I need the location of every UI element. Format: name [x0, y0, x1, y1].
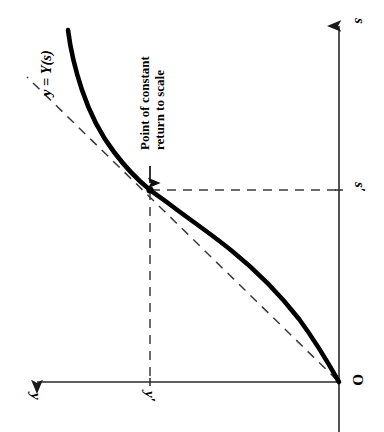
figure-canvas: s s′ y y′ O y = Y(s) Point of constant r… — [0, 0, 384, 432]
annotation-line-2: return to scale — [153, 56, 168, 150]
annotation-line-1: Point of constant — [137, 56, 152, 150]
y-axis-label: y — [27, 393, 44, 400]
y-prime-tick-label: y′ — [141, 391, 158, 402]
s-prime-tick-label: s′ — [351, 182, 368, 192]
s-axis-label: s — [351, 18, 368, 24]
constant-return-annotation: Point of constant return to scale — [138, 56, 167, 150]
constant-returns-ray — [27, 77, 337, 380]
figure-graphic — [0, 0, 384, 432]
origin-label: O — [349, 374, 366, 386]
production-curve — [68, 30, 339, 382]
curve-label: y = Y(s) — [38, 50, 54, 96]
constant-return-point-marker — [146, 186, 153, 193]
